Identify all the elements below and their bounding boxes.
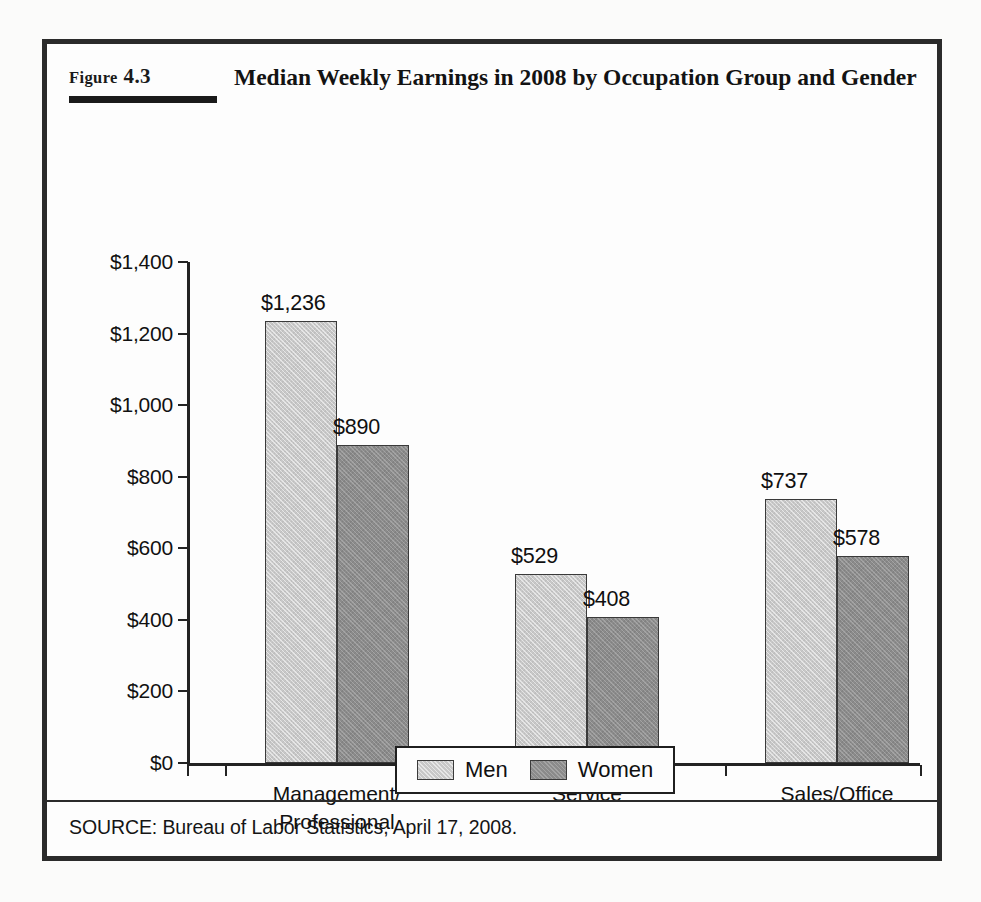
bar-men [265,321,337,763]
y-axis-tick-label: $1,000 [110,393,173,417]
x-axis-tick [725,765,727,776]
x-axis-category-label: Sales/Office [707,780,967,808]
bar-value-label: $1,236 [261,291,326,316]
figure-frame: Figure 4.3 Median Weekly Earnings in 200… [42,39,942,861]
bar-value-label: $408 [583,587,630,612]
x-axis-tick [187,765,189,776]
legend-item-women: Women [530,757,653,783]
y-axis-tick [178,547,188,549]
bar-women [587,617,659,763]
bar-men [765,499,837,763]
bar-value-label: $737 [761,469,808,494]
legend-item-men: Men [417,757,508,783]
y-axis-tick-label: $200 [127,679,173,703]
bar-value-label: $578 [833,526,880,551]
figure-title-block: Figure 4.3 Median Weekly Earnings in 200… [69,62,921,103]
bar-men [515,574,587,763]
bar-women [837,556,909,763]
y-axis-tick [178,690,188,692]
y-axis-tick [178,619,188,621]
y-axis-tick-label: $0 [150,751,173,775]
y-axis-tick [178,476,188,478]
figure-rule [69,96,217,103]
page-title: Median Weekly Earnings in 2008 by Occupa… [232,62,921,93]
y-axis-tick [178,261,188,263]
y-axis-tick [178,404,188,406]
chart-plot-area: $1,400$1,200$1,000$800$600$400$200$0 $1,… [47,148,937,748]
y-axis-tick-label: $800 [127,465,173,489]
y-axis-tick [178,762,188,764]
bar-value-label: $529 [511,544,558,569]
figure-label-number: 4.3 [124,64,151,88]
x-axis-tick [920,765,922,776]
source-divider [47,800,937,802]
figure-label-prefix: Figure [69,68,118,87]
x-axis-tick [225,765,227,776]
y-axis-tick-label: $600 [127,536,173,560]
y-axis-tick-label: $400 [127,608,173,632]
legend-label-women: Women [578,757,653,783]
source-note: SOURCE: Bureau of Labor Statistics, Apri… [69,816,517,839]
y-axis-tick-label: $1,200 [110,322,173,346]
legend-swatch-men-icon [417,760,454,780]
y-axis-tick [178,333,188,335]
chart-legend: Men Women [395,746,675,794]
figure-label: Figure 4.3 [69,64,232,89]
legend-swatch-women-icon [530,760,567,780]
bar-women [337,445,409,763]
bar-value-label: $890 [333,415,380,440]
figure-label-wrap: Figure 4.3 [69,62,232,103]
legend-label-men: Men [465,757,508,783]
y-axis-tick-label: $1,400 [110,250,173,274]
page-background: Figure 4.3 Median Weekly Earnings in 200… [0,0,981,902]
